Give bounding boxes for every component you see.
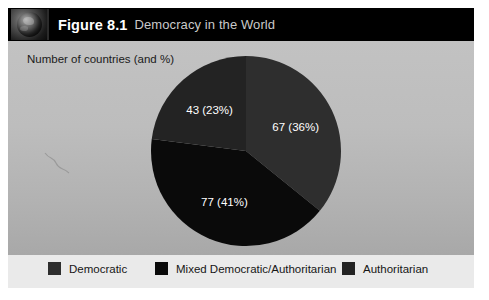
pie-chart: 67 (36%) 77 (41%) 43 (23%) [150, 55, 342, 247]
legend-item-authoritarian[interactable]: Authoritarian [342, 262, 428, 275]
pie-slices [151, 56, 341, 246]
chart-body: Number of countries (and %) 67 (36%) 77 … [8, 41, 474, 255]
figure-header-bar: Figure 8.1 Democracy in the World [8, 8, 474, 41]
legend-item-democratic[interactable]: Democratic [48, 262, 127, 275]
legend-swatch-mixed [155, 262, 168, 275]
legend-swatch-authoritarian [342, 262, 355, 275]
figure-title: Democracy in the World [135, 17, 276, 32]
legend-label-mixed: Mixed Democratic/Authoritarian [176, 263, 336, 275]
legend-label-authoritarian: Authoritarian [363, 263, 428, 275]
globe-landmass-upper [23, 17, 34, 25]
legend-label-democratic: Democratic [69, 263, 127, 275]
figure-number: Figure 8.1 [58, 17, 128, 33]
chart-legend: Democratic Mixed Democratic/Authoritaria… [8, 255, 474, 288]
legend-item-mixed[interactable]: Mixed Democratic/Authoritarian [155, 262, 336, 275]
legend-swatch-democratic [48, 262, 61, 275]
figure-panel: Figure 8.1 Democracy in the World Number… [8, 8, 474, 288]
pie-label-authoritarian: 43 (23%) [186, 104, 233, 116]
scan-artifact-squiggle [44, 151, 70, 175]
pie-label-mixed: 77 (41%) [201, 196, 248, 208]
globe-icon [11, 9, 49, 40]
pie-label-democratic: 67 (36%) [272, 121, 319, 133]
